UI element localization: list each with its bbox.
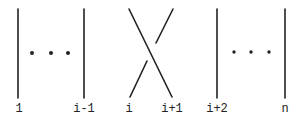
label-strand-i: i bbox=[125, 102, 132, 116]
ellipsis-left bbox=[30, 51, 70, 55]
label-strand-1: 1 bbox=[15, 102, 22, 116]
strand-under-crossing-upper bbox=[156, 9, 173, 43]
label-strand-n: n bbox=[281, 102, 288, 116]
label-strand-i-plus-1: i+1 bbox=[161, 102, 183, 116]
braid-strands bbox=[0, 0, 303, 122]
braid-diagram: 1 i-1 i i+1 i+2 n bbox=[0, 0, 303, 122]
label-strand-i-plus-2: i+2 bbox=[206, 102, 228, 116]
label-strand-i-minus-1: i-1 bbox=[73, 102, 95, 116]
ellipsis-right bbox=[232, 50, 270, 53]
strand-under-crossing-lower bbox=[130, 61, 147, 97]
